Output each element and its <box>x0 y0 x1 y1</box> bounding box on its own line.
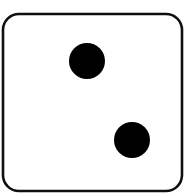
die-graphic <box>0 0 186 196</box>
die-scene <box>0 0 186 196</box>
pip-lower-right <box>114 122 150 158</box>
die-body <box>3 14 182 191</box>
pip-upper-left <box>69 43 105 79</box>
